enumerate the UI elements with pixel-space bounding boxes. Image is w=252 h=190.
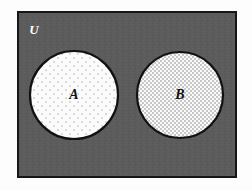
set-b-label: B (174, 87, 184, 102)
venn-diagram-figure: U A B (0, 0, 252, 190)
universe-label: U (29, 22, 39, 37)
venn-diagram-canvas: U A B (0, 0, 252, 190)
set-a-label: A (68, 87, 78, 102)
